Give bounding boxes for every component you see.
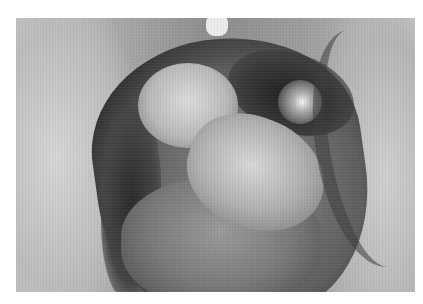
photo-grain <box>16 18 415 292</box>
clinical-photograph <box>16 18 415 292</box>
